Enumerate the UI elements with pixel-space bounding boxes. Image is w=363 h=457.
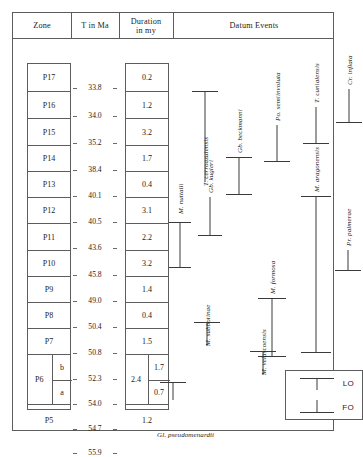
species-label-m-nuttalli: M. nuttalli	[177, 183, 185, 214]
species-label-po-semiinvoluta: Po. semiinvoluta	[274, 72, 282, 121]
age-tick-40-1: 40.1	[71, 191, 119, 200]
fo-symbol-icon	[300, 395, 334, 419]
cap-bottom	[198, 235, 222, 236]
header-duration-line1: Duration	[131, 17, 162, 27]
cap-bottom	[264, 161, 290, 162]
age-tick-50-8: 50.8	[71, 348, 119, 357]
legend-box: LO FO	[285, 370, 363, 420]
cap-bottom	[303, 143, 329, 144]
cap-bottom	[226, 194, 252, 195]
fo-stem	[317, 400, 318, 412]
zone-row-p8: P8	[28, 303, 70, 329]
stem	[180, 222, 181, 267]
lo-stem	[317, 378, 318, 390]
duration-p15: 3.2	[126, 119, 168, 146]
age-column: 33.8 34.0 35.2 38.4 40.1 40.5 43.6 45.8 …	[71, 39, 119, 432]
age-tick-43-6: 43.6	[71, 243, 119, 252]
species-label-m-velascoensis: M. velascoensis	[260, 329, 268, 375]
zone-row-p10: P10	[28, 251, 70, 277]
zone-subrow-p6a: a	[52, 380, 72, 405]
zone-row-p5: P5	[28, 405, 70, 435]
species-label-gb-beckmanni: Gb. beckmanni	[236, 109, 244, 153]
zone-row-p7: P7	[28, 329, 70, 355]
header-datum-events: Datum Events	[173, 13, 335, 39]
stem	[316, 196, 317, 352]
duration-p13: 0.4	[126, 172, 168, 198]
species-label-m-subbotinae: M. subbotinae	[204, 305, 212, 346]
age-tick-54-7: 54.7	[71, 424, 119, 433]
legend-label-lo: LO	[343, 379, 354, 388]
stem	[272, 298, 273, 356]
age-tick-34-0: 34.0	[71, 111, 119, 120]
zone-row-p11: P11	[28, 224, 70, 251]
zone-row-p13: P13	[28, 172, 70, 198]
zone-row-p12: P12	[28, 198, 70, 224]
stem	[239, 157, 240, 194]
stem	[349, 89, 350, 122]
age-tick-40-5: 40.5	[71, 217, 119, 226]
stem	[173, 382, 174, 400]
duration-p11: 2.2	[126, 224, 168, 251]
stem	[277, 125, 278, 161]
duration-p8: 0.4	[126, 303, 168, 329]
zone-row-p16: P16	[28, 92, 70, 119]
duration-p17: 0.2	[126, 64, 168, 92]
zone-column: P17 P16 P15 P14 P13 P12 P11 P10 P9 P8 P7…	[27, 63, 71, 410]
legend-row-lo: LO	[286, 371, 362, 395]
chart-frame: Zone T in Ma Duration in my Datum Events…	[12, 12, 334, 431]
duration-p14: 1.7	[126, 146, 168, 172]
duration-p6a: 0.7	[148, 380, 170, 405]
duration-p16: 1.2	[126, 92, 168, 119]
header-duration-line2: in my	[136, 26, 156, 36]
datum-events-panel: T. cerroazulensis M. nuttalli Gb. kugler…	[173, 39, 333, 430]
legend-label-fo: FO	[342, 403, 354, 412]
age-tick-52-3: 52.3	[71, 374, 119, 383]
zone-row-p17: P17	[28, 64, 70, 92]
age-tick-33-8: 33.8	[71, 83, 119, 92]
species-label-cr-inflata: Cr. inflata	[346, 56, 354, 86]
cap-bottom	[336, 122, 362, 123]
duration-p9: 1.4	[126, 277, 168, 303]
age-tick-50-4: 50.4	[71, 322, 119, 331]
species-label-pr-palmerae: Pr. palmerae	[345, 209, 353, 246]
stem	[348, 250, 349, 270]
age-tick-45-8: 45.8	[71, 270, 119, 279]
age-tick-38-4: 38.4	[71, 165, 119, 174]
duration-p6b: 1.7	[148, 355, 170, 380]
legend-row-fo: FO	[286, 395, 362, 419]
species-label-gb-kugleri: Gb. kugleri	[207, 160, 215, 193]
stem	[210, 197, 211, 235]
species-label-m-aragonensis: M. aragonensis	[313, 147, 321, 192]
cap-bottom	[169, 267, 191, 268]
age-tick-35-2: 35.2	[71, 138, 119, 147]
table-header-row: Zone T in Ma Duration in my Datum Events	[13, 13, 333, 39]
species-label-m-formosa: M. formosa	[269, 261, 277, 294]
zone-row-p9: P9	[28, 277, 70, 303]
age-tick-54-0: 54.0	[71, 399, 119, 408]
age-tick-55-9: 55.9	[71, 448, 119, 457]
stem	[316, 107, 317, 143]
species-label-t-cunialensis: T. cunialensis	[313, 63, 321, 103]
zone-row-p14: P14	[28, 146, 70, 172]
zone-row-p15: P15	[28, 119, 70, 146]
species-label-gl-pseudomenardii: Gl. pseudomenardii	[157, 431, 214, 439]
fo-cap	[300, 412, 334, 413]
duration-p7: 1.5	[126, 329, 168, 355]
duration-p12: 3.1	[126, 198, 168, 224]
header-duration: Duration in my	[119, 13, 173, 39]
duration-column: 0.2 1.2 3.2 1.7 0.4 3.1 2.2 3.2 1.4 0.4 …	[125, 63, 169, 410]
header-age: T in Ma	[71, 13, 119, 39]
cap-bottom	[301, 352, 331, 353]
cap-bottom	[335, 270, 361, 271]
lo-symbol-icon	[300, 371, 334, 395]
header-zone: Zone	[13, 13, 71, 39]
zone-subrow-p6b: b	[52, 355, 72, 380]
duration-p10: 3.2	[126, 251, 168, 277]
age-tick-49-0: 49.0	[71, 296, 119, 305]
